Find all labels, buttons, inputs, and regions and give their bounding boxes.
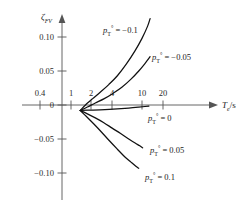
x-tick-label-2: 2 — [89, 88, 93, 98]
x-tick-label-20: 20 — [159, 88, 168, 98]
ann1-eq: = −0.05 — [162, 52, 191, 62]
y-tick-label--0.10: −0.10 — [34, 168, 54, 178]
ann0-sub: T — [107, 31, 111, 37]
chart-svg: 0.10 0.05 0 −0.05 −0.10 0.4 1 2 4 10 20 … — [0, 0, 247, 218]
ann1-sub: T — [156, 58, 160, 64]
x-axis-arrowhead — [209, 102, 218, 109]
x-axis-title: Te/s — [222, 100, 236, 112]
curve-label-neg-0-1: pT° = −0.1 — [102, 25, 138, 37]
curve-label-pos-0-1: pT° = 0.1 — [144, 172, 175, 184]
ann3-sub: T — [154, 151, 158, 157]
y-axis-title: ζFV — [41, 12, 53, 24]
curve-label-neg-0-05: pT° = −0.05 — [151, 52, 191, 64]
y-tick-label-0: 0 — [50, 100, 54, 110]
curve-label-pos-0-05: pT° = 0.05 — [149, 145, 184, 157]
ann0-eq: = −0.1 — [113, 25, 137, 35]
ann4-eq: = 0.1 — [155, 172, 175, 182]
y-axis — [59, 14, 66, 200]
y-axis-title-sub: FV — [44, 18, 54, 24]
ann2-eq: = 0 — [158, 113, 171, 123]
x-tick-label-1: 1 — [69, 88, 73, 98]
x-tick-label-0.4: 0.4 — [35, 88, 46, 98]
x-axis-title-rest: /s — [230, 100, 237, 110]
curve-label-zero: pT° = 0 — [147, 113, 172, 125]
x-tick-label-10: 10 — [138, 88, 147, 98]
figure-container: 0.10 0.05 0 −0.05 −0.10 0.4 1 2 4 10 20 … — [0, 0, 247, 218]
ann4-sub: T — [149, 178, 153, 184]
y-tick-label-0.05: 0.05 — [39, 66, 54, 76]
ann3-eq: = 0.05 — [160, 145, 184, 155]
y-tick-label--0.05: −0.05 — [34, 134, 54, 144]
ann2-sub: T — [152, 119, 156, 125]
y-tick-label-0.10: 0.10 — [39, 32, 54, 42]
y-axis-arrowhead — [59, 14, 66, 23]
curve-annotations: pT° = −0.1 pT° = −0.05 pT° = 0 pT° = 0.0… — [102, 25, 191, 184]
curve-series-2 — [80, 106, 149, 110]
